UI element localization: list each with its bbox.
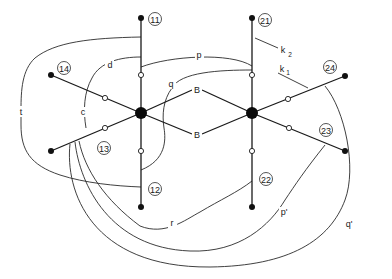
label-12: 12 bbox=[149, 183, 162, 196]
leaf-node-12 bbox=[138, 204, 144, 210]
svg-text:14: 14 bbox=[59, 64, 69, 74]
label-21: 21 bbox=[259, 14, 272, 27]
edge-label-B-upper: B bbox=[194, 85, 200, 95]
edge-hub2-B-lower bbox=[202, 113, 252, 134]
marker-11-spoke bbox=[138, 72, 143, 77]
label-k2: k bbox=[281, 45, 286, 55]
leaf-node-11 bbox=[138, 15, 144, 21]
curve-label-q-prime: q' bbox=[346, 219, 353, 229]
label-k2-subscript: 2 bbox=[288, 51, 292, 58]
k1-pointer bbox=[278, 73, 308, 88]
leaf-node-23 bbox=[342, 148, 348, 154]
leaf-node-13 bbox=[48, 148, 54, 154]
leaf-node-22 bbox=[249, 204, 255, 210]
graph-diagram: 11 12 14 13 21 22 24 23 B B p q d c t r bbox=[0, 0, 392, 279]
svg-text:22: 22 bbox=[261, 175, 271, 185]
k2-pointer bbox=[255, 38, 278, 48]
marker-23-spoke bbox=[286, 125, 291, 130]
curve-label-d: d bbox=[107, 60, 112, 70]
marker-14-spoke bbox=[102, 95, 107, 100]
curve-label-q: q bbox=[168, 79, 173, 89]
marker-21-spoke bbox=[249, 72, 254, 77]
label-13: 13 bbox=[98, 142, 111, 155]
svg-text:13: 13 bbox=[99, 144, 109, 154]
edge-label-B-lower: B bbox=[194, 130, 200, 140]
leaf-node-24 bbox=[342, 73, 348, 79]
marker-13-spoke bbox=[102, 125, 107, 130]
curve-label-r: r bbox=[171, 218, 174, 228]
edge-hub1-B-lower bbox=[141, 113, 192, 134]
label-24: 24 bbox=[324, 61, 337, 74]
svg-text:24: 24 bbox=[325, 63, 335, 73]
label-23: 23 bbox=[320, 124, 333, 137]
svg-text:11: 11 bbox=[150, 15, 159, 25]
curve-label-c: c bbox=[81, 107, 86, 117]
curve-q-prime bbox=[69, 86, 349, 267]
marker-12-spoke bbox=[138, 148, 143, 153]
label-22: 22 bbox=[260, 173, 273, 186]
svg-text:23: 23 bbox=[321, 126, 331, 136]
edge-hub1-14 bbox=[51, 75, 141, 113]
marker-22-spoke bbox=[249, 148, 254, 153]
leaf-node-21 bbox=[249, 15, 255, 21]
hub-node-1 bbox=[135, 107, 147, 119]
hub-node-2 bbox=[246, 107, 258, 119]
label-11: 11 bbox=[149, 13, 162, 26]
curve-p-prime bbox=[75, 142, 325, 251]
edge-hub1-B-upper bbox=[141, 90, 192, 113]
edge-hub1-13 bbox=[51, 113, 141, 151]
leaf-node-14 bbox=[48, 72, 54, 78]
curve-label-p-prime: p' bbox=[281, 207, 288, 217]
marker-24-spoke bbox=[285, 96, 290, 101]
label-k1: k bbox=[280, 64, 285, 74]
svg-text:12: 12 bbox=[150, 185, 160, 195]
label-14: 14 bbox=[58, 62, 71, 75]
label-k1-subscript: 1 bbox=[286, 69, 290, 76]
edge-hub2-B-upper bbox=[202, 90, 252, 113]
curve-label-p: p bbox=[196, 50, 201, 60]
svg-text:21: 21 bbox=[260, 16, 270, 26]
